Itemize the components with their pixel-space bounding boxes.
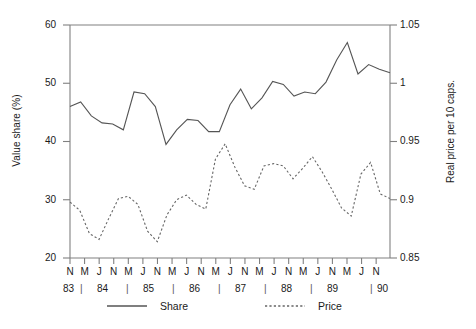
x-axis-year-83: 83: [63, 283, 74, 294]
x-axis-year-90: 90: [377, 283, 388, 294]
y-tick-left-30: 30: [30, 194, 56, 205]
year-separator: |: [310, 283, 313, 294]
year-separator: |: [264, 283, 267, 294]
x-axis-year-87: 87: [235, 283, 246, 294]
y-tick-right-100: 1: [400, 77, 432, 88]
y-tick-right-090: 0.9: [400, 194, 432, 205]
y-tick-right-085: 0.85: [400, 252, 432, 263]
y-tick-left-40: 40: [30, 135, 56, 146]
y-ticks-left: [63, 25, 70, 258]
x-axis-year-86: 86: [189, 283, 200, 294]
y-axis-title-left-text: Value share (%): [11, 94, 22, 166]
y-axis-title-left: Value share (%): [4, 0, 28, 260]
x-axis-year-89: 89: [327, 283, 338, 294]
x-ticks: [70, 258, 376, 264]
y-axis-title-right: Real price per 10 caps.: [437, 0, 463, 262]
year-separator: |: [218, 283, 221, 294]
y-tick-left-60: 60: [30, 19, 56, 30]
y-tick-right-105: 1.05: [400, 19, 432, 30]
x-axis-year-85: 85: [143, 283, 154, 294]
series-line-share: [70, 42, 390, 144]
x-axis-month-label: N: [368, 266, 384, 277]
year-separator: |: [80, 283, 83, 294]
y-axis-title-right-text: Real price per 10 caps.: [445, 80, 456, 183]
plot-area: [0, 0, 476, 329]
year-separator: |: [370, 283, 373, 294]
series-line-price: [70, 144, 390, 242]
x-axis-year-88: 88: [281, 283, 292, 294]
x-axis-year-84: 84: [97, 283, 108, 294]
year-separator: |: [172, 283, 175, 294]
year-separator: |: [126, 283, 129, 294]
y-tick-left-20: 20: [30, 252, 56, 263]
y-tick-right-095: 0.95: [400, 135, 432, 146]
legend-label-price: Price: [318, 300, 342, 312]
y-ticks-right: [390, 25, 397, 258]
y-tick-left-50: 50: [30, 77, 56, 88]
chart-figure: Value share (%) Real price per 10 caps. …: [0, 0, 476, 329]
legend-label-share: Share: [160, 300, 188, 312]
